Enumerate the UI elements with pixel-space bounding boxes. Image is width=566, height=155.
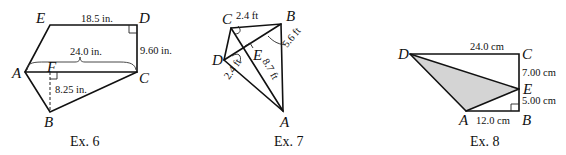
shaded-triangle-dae xyxy=(410,54,519,111)
measure-fb: 8.25 in. xyxy=(55,84,87,95)
caption-ex7: Ex. 7 xyxy=(274,134,304,149)
measure-dc: 24.0 cm xyxy=(470,41,504,52)
vertex-label-b: B xyxy=(286,8,295,24)
measure-ce: 2.4 ft xyxy=(236,10,258,21)
vertex-label-c: C xyxy=(522,46,533,62)
right-angle-mark-d xyxy=(129,25,137,33)
measure-ab: 12.0 cm xyxy=(476,115,510,126)
measure-ed: 18.5 in. xyxy=(81,13,113,24)
measure-dc: 9.60 in. xyxy=(140,45,172,56)
caption-ex8: Ex. 8 xyxy=(470,134,500,149)
vertex-label-c: C xyxy=(139,70,150,86)
right-angle-mark-e xyxy=(245,43,253,48)
measure-eb: 5.00 cm xyxy=(522,95,556,106)
figure-ex8: D C E B A 24.0 cm 7.00 cm 5.00 cm 12.0 c… xyxy=(397,41,556,149)
vertex-label-b: B xyxy=(522,112,531,128)
figure-ex6: E D C A F B 18.5 in. 24.0 in. 9.60 in. 8… xyxy=(11,10,172,149)
measure-be: 5.6 ft xyxy=(280,25,303,49)
vertex-label-a: A xyxy=(11,65,22,81)
right-angle-mark-b xyxy=(511,104,519,111)
vertex-label-f: F xyxy=(46,59,57,75)
measure-ce: 7.00 cm xyxy=(522,67,556,78)
vertex-label-a: A xyxy=(458,112,469,128)
geometry-figures: E D C A F B 18.5 in. 24.0 in. 9.60 in. 8… xyxy=(0,0,566,155)
vertex-label-a: A xyxy=(279,114,290,130)
caption-ex6: Ex. 6 xyxy=(70,134,100,149)
figure-ex7: C B D A E 2.4 ft 5.6 ft 2.4 ft 8.7 ft Ex… xyxy=(211,8,304,149)
brace-ac xyxy=(27,57,136,70)
vertex-label-c: C xyxy=(222,11,233,27)
vertex-label-e: E xyxy=(35,10,45,26)
vertex-label-d: D xyxy=(138,10,150,26)
measure-ae: 8.7 ft xyxy=(260,57,281,82)
vertex-label-d: D xyxy=(397,46,409,62)
vertex-label-b: B xyxy=(44,114,53,130)
vertex-label-e: E xyxy=(252,47,262,63)
measure-ac: 24.0 in. xyxy=(70,46,102,57)
vertex-label-d: D xyxy=(211,52,223,68)
